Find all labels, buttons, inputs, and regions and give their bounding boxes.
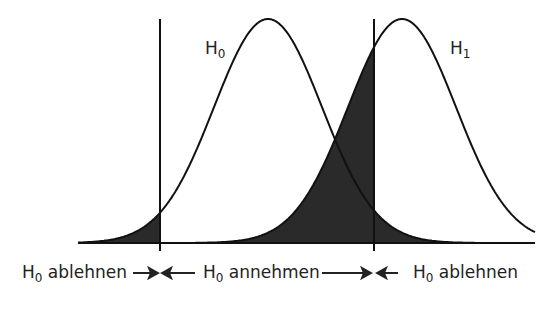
- arrow-left-icon: [377, 268, 386, 278]
- arrow-right-icon: [362, 268, 371, 278]
- arrow-right-icon: [149, 268, 158, 278]
- arrow-left-icon: [162, 268, 171, 278]
- hypothesis-test-diagram: H0 H1 H0 ablehnen H0 annehmen H0 ablehne…: [0, 0, 559, 311]
- arrows: [0, 0, 559, 311]
